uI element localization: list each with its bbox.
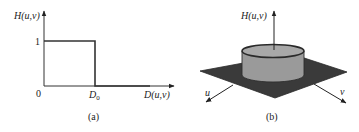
panel-a-step-curve <box>44 41 150 86</box>
panel-a-origin-label: 0 <box>36 88 41 99</box>
panel-a-y-tick-1: 1 <box>35 36 40 47</box>
panel-a-x-axis-label: D(u,v) <box>143 89 170 101</box>
panel-a-transfer-function-plot: H(u,v) 1 0 D0 D(u,v) (a) <box>13 10 174 123</box>
panel-b-caption: (b) <box>266 111 278 123</box>
panel-a-x-tick-d0: D0 <box>88 89 100 102</box>
panel-b-u-axis-label: u <box>205 87 210 98</box>
panel-b-v-axis-label: v <box>340 86 345 97</box>
panel-b-h-axis-label: H(u,v) <box>240 10 267 22</box>
panel-b-cylinder-top <box>242 45 304 58</box>
ideal-lowpass-filter-figure: H(u,v) 1 0 D0 D(u,v) (a) H(u,v) u <box>0 0 359 132</box>
panel-a-caption: (a) <box>88 111 99 123</box>
panel-a-y-axis-label: H(u,v) <box>13 10 40 22</box>
panel-b-u-axis <box>206 85 233 102</box>
panel-b-3d-filter-plot: H(u,v) u v (b) <box>200 10 347 123</box>
